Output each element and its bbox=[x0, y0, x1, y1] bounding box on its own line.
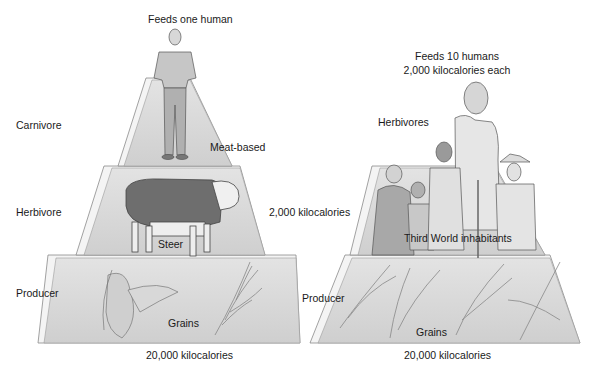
left-bottom-caption: 20,000 kilocalories bbox=[146, 349, 233, 361]
left-top-caption: Feeds one human bbox=[148, 13, 233, 25]
left-producer-label: Producer bbox=[16, 287, 59, 299]
right-producer-label: Producer bbox=[302, 292, 345, 304]
left-producer-tier bbox=[38, 255, 300, 343]
third-world-label: Third World inhabitants bbox=[404, 232, 512, 244]
left-pyramid bbox=[38, 29, 300, 343]
carnivore-label: Carnivore bbox=[16, 119, 62, 131]
right-top-caption-line2: 2,000 kilocalories each bbox=[382, 64, 532, 76]
steer-label: Steer bbox=[158, 238, 183, 250]
herbivore-label: Herbivore bbox=[16, 206, 62, 218]
left-grains-label: Grains bbox=[168, 317, 199, 329]
right-grains-label: Grains bbox=[416, 326, 447, 338]
meat-based-label: Meat-based bbox=[210, 141, 265, 153]
right-pyramid bbox=[310, 82, 580, 343]
middle-energy-label: 2,000 kilocalories bbox=[269, 206, 350, 218]
herbivores-label: Herbivores bbox=[378, 116, 429, 128]
right-bottom-caption: 20,000 kilocalories bbox=[404, 349, 491, 361]
right-top-caption-line1: Feeds 10 humans bbox=[382, 50, 532, 62]
